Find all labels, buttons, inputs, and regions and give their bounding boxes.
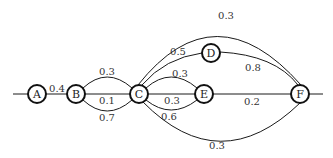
node-label: E xyxy=(200,88,208,101)
edge-C-F-top xyxy=(138,37,301,86)
graph-diagram: 0.40.30.10.70.50.80.30.30.30.60.20.3 ABC… xyxy=(0,0,333,158)
node-a: A xyxy=(28,85,46,103)
edge-weight-label: 0.1 xyxy=(99,95,115,106)
node-label: C xyxy=(135,88,143,101)
edge-weight-label: 0.2 xyxy=(244,96,260,107)
edge-weight-label: 0.3 xyxy=(172,68,188,79)
node-d: D xyxy=(202,44,220,62)
edge-C-E-top xyxy=(146,77,197,88)
edge-weight-label: 0.6 xyxy=(161,111,177,122)
edge-weight-label: 0.3 xyxy=(209,140,225,151)
node-label: D xyxy=(207,47,216,60)
edge-weight-label: 0.4 xyxy=(49,83,65,94)
edge-C-F-bot xyxy=(143,102,300,141)
edge-B-C-top xyxy=(83,77,132,88)
edge-weight-label: 0.8 xyxy=(245,62,261,73)
node-c: C xyxy=(130,85,148,103)
edge-weight-label: 0.3 xyxy=(218,10,234,21)
node-label: B xyxy=(72,88,80,101)
node-e: E xyxy=(195,85,213,103)
node-f: F xyxy=(291,85,309,103)
edge-weight-label: 0.5 xyxy=(170,46,186,57)
node-label: F xyxy=(296,88,304,101)
node-b: B xyxy=(67,85,85,103)
edge-weight-label: 0.3 xyxy=(99,66,115,77)
node-label: A xyxy=(32,88,42,101)
edge-weight-label: 0.7 xyxy=(99,112,115,123)
edge-weight-label: 0.3 xyxy=(164,95,180,106)
